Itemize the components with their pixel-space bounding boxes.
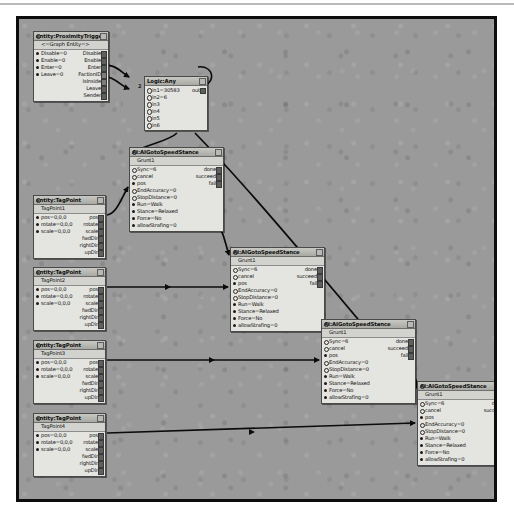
node-tagpoint-4[interactable]: entity:TagPointTagPoint4pos=0,0,0posrota… xyxy=(33,413,106,477)
input-port-label[interactable]: in1=30583 xyxy=(152,87,180,94)
input-port-icon[interactable] xyxy=(324,354,327,357)
input-port-label[interactable]: pos xyxy=(425,414,434,421)
input-port-label[interactable]: in3 xyxy=(152,101,160,108)
node-title-ai-goto-3[interactable]: AI:AIGotoSpeedStance xyxy=(322,320,415,329)
node-collapse-icon[interactable] xyxy=(97,415,104,422)
input-port-icon[interactable] xyxy=(233,317,236,320)
input-port-label[interactable]: Leave=0 xyxy=(41,71,63,78)
input-port-label[interactable]: in6 xyxy=(152,122,160,129)
input-port-icon[interactable] xyxy=(132,203,135,206)
node-entity-row-tagpoint-4[interactable]: TagPoint4 xyxy=(34,423,105,432)
input-port-label[interactable]: EndAccuracy=0 xyxy=(238,287,277,294)
node-title-tagpoint-3[interactable]: entity:TagPoint xyxy=(34,341,105,350)
input-port-icon[interactable] xyxy=(36,216,39,219)
input-port-label[interactable]: Stance=Relaxed xyxy=(137,208,178,215)
node-collapse-icon[interactable] xyxy=(316,249,323,256)
input-port-label[interactable]: Sync=6 xyxy=(137,166,156,173)
input-port-label[interactable]: cancel xyxy=(137,173,153,180)
input-port-label[interactable]: cancel xyxy=(329,345,345,352)
input-port-label[interactable]: Force=No xyxy=(238,315,262,322)
input-port-label[interactable]: Run=Walk xyxy=(137,201,163,208)
output-port-label[interactable]: succeed xyxy=(484,407,494,414)
node-title-tagpoint-2[interactable]: entity:TagPoint xyxy=(34,268,105,277)
input-port-label[interactable]: rotate=0,0,0 xyxy=(41,221,72,228)
output-port-label[interactable]: fwdDir xyxy=(82,235,98,242)
input-port-label[interactable]: allowStrafing=0 xyxy=(137,222,176,229)
output-port-label[interactable]: fwdDir xyxy=(82,307,98,314)
output-port-label[interactable]: upDir xyxy=(85,467,98,474)
input-port-label[interactable]: EndAccuracy=0 xyxy=(137,187,176,194)
input-port-label[interactable]: Force=No xyxy=(425,449,449,456)
node-entity-row-ai-goto-1[interactable]: Grunt1 xyxy=(130,157,223,166)
input-port-label[interactable]: Enable=0 xyxy=(41,57,65,64)
input-port-label[interactable]: StopDistance=0 xyxy=(329,366,369,373)
input-port-label[interactable]: allowStrafing=0 xyxy=(329,394,368,401)
input-port-icon[interactable] xyxy=(36,375,39,378)
input-port-icon[interactable] xyxy=(36,288,39,291)
input-port-label[interactable]: allowStrafing=0 xyxy=(238,322,277,329)
input-port-label[interactable]: pos=0,0,0 xyxy=(41,432,66,439)
input-port-icon[interactable] xyxy=(233,282,236,285)
input-port-label[interactable]: Run=Walk xyxy=(425,435,451,442)
input-port-label[interactable]: Stance=Relaxed xyxy=(238,308,279,315)
input-port-icon[interactable] xyxy=(233,324,236,327)
node-title-proximity-trigger[interactable]: entity:ProximityTrigger xyxy=(34,32,108,41)
node-title-tagpoint-1[interactable]: entity:TagPoint xyxy=(34,196,105,205)
input-port-icon[interactable] xyxy=(36,302,39,305)
input-port-icon[interactable] xyxy=(36,441,39,444)
input-port-label[interactable]: scale=0,0,0 xyxy=(41,300,70,307)
input-port-icon[interactable] xyxy=(233,310,236,313)
node-ai-goto-1[interactable]: AI:AIGotoSpeedStanceGrunt1Sync=6donecanc… xyxy=(129,147,224,232)
input-port-label[interactable]: Disable=0 xyxy=(41,50,67,57)
input-port-label[interactable]: Sync=6 xyxy=(329,338,348,345)
input-port-icon[interactable] xyxy=(132,182,135,185)
input-port-icon[interactable] xyxy=(132,224,135,227)
output-port-label[interactable]: upDir xyxy=(85,249,98,256)
input-port-icon[interactable] xyxy=(36,368,39,371)
output-port-label[interactable]: Enable xyxy=(84,57,101,64)
input-port-label[interactable]: pos=0,0,0 xyxy=(41,359,66,366)
input-port-label[interactable]: in5 xyxy=(152,115,160,122)
output-port-label[interactable]: scale xyxy=(85,228,98,235)
output-port-icon[interactable] xyxy=(98,250,105,257)
node-proximity-trigger[interactable]: entity:ProximityTrigger<=Graph Entity=>D… xyxy=(33,31,109,102)
output-port-label[interactable]: rightDir xyxy=(79,387,98,394)
output-port-label[interactable]: rightDir xyxy=(79,314,98,321)
input-port-label[interactable]: rotate=0,0,0 xyxy=(41,366,72,373)
input-port-label[interactable]: StopDistance=0 xyxy=(137,194,177,201)
input-port-label[interactable]: pos=0,0,0 xyxy=(41,286,66,293)
input-port-icon[interactable] xyxy=(36,52,39,55)
node-entity-row-tagpoint-2[interactable]: TagPoint2 xyxy=(34,277,105,286)
node-collapse-icon[interactable] xyxy=(215,149,222,156)
output-port-label[interactable]: rotate xyxy=(83,366,98,373)
output-port-label[interactable]: done xyxy=(204,166,216,173)
node-ai-goto-3[interactable]: AI:AIGotoSpeedStanceGrunt1Sync=6donecanc… xyxy=(321,319,416,404)
input-port-label[interactable]: pos xyxy=(238,280,247,287)
input-port-icon[interactable] xyxy=(36,434,39,437)
node-entity-row-ai-goto-2[interactable]: Grunt1 xyxy=(231,257,324,266)
node-title-ai-goto-2[interactable]: AI:AIGotoSpeedStance xyxy=(231,248,324,257)
input-port-label[interactable]: StopDistance=0 xyxy=(238,294,278,301)
input-port-label[interactable]: pos xyxy=(137,180,146,187)
input-port-label[interactable]: Force=No xyxy=(137,215,161,222)
output-port-label[interactable]: done xyxy=(396,338,408,345)
input-port-label[interactable]: scale=0,0,0 xyxy=(41,446,70,453)
flowgraph-canvas[interactable]: entity:ProximityTrigger<=Graph Entity=>D… xyxy=(19,19,494,499)
node-title-ai-goto-1[interactable]: AI:AIGotoSpeedStance xyxy=(130,148,223,157)
output-port-label[interactable]: Sender xyxy=(84,92,102,99)
output-port-label[interactable]: Leave xyxy=(86,85,101,92)
input-port-icon[interactable] xyxy=(36,295,39,298)
input-port-icon[interactable] xyxy=(36,361,39,364)
output-port-label[interactable]: fwdDir xyxy=(82,380,98,387)
input-port-icon[interactable] xyxy=(36,448,39,451)
input-port-label[interactable]: allowStrafing=0 xyxy=(425,456,464,463)
input-port-label[interactable]: Sync=6 xyxy=(238,266,257,273)
output-port-icon[interactable] xyxy=(98,468,105,475)
node-title-ai-goto-4[interactable]: AI:AIGotoSpeedStance xyxy=(418,382,494,391)
output-port-label[interactable]: done xyxy=(492,400,494,407)
output-port-label[interactable]: rightDir xyxy=(79,242,98,249)
input-port-label[interactable]: rotate=0,0,0 xyxy=(41,293,72,300)
output-port-label[interactable]: Disable xyxy=(83,50,101,57)
node-collapse-icon[interactable] xyxy=(97,342,104,349)
output-port-label[interactable]: rotate xyxy=(83,439,98,446)
